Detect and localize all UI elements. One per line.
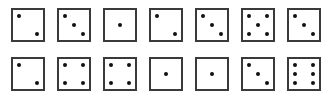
pip-icon — [219, 32, 223, 36]
die-face-2 — [11, 8, 45, 42]
pip-icon — [17, 63, 21, 67]
pip-icon — [256, 23, 260, 27]
pip-icon — [311, 72, 315, 76]
die-face-1 — [149, 57, 183, 91]
pip-icon — [265, 14, 269, 18]
pip-icon — [63, 14, 67, 18]
die-face-5 — [241, 8, 275, 42]
pip-icon — [81, 63, 85, 67]
die-face-3 — [241, 57, 275, 91]
pip-icon — [265, 32, 269, 36]
pip-icon — [311, 32, 315, 36]
pip-icon — [293, 63, 297, 67]
pip-icon — [127, 63, 131, 67]
pip-icon — [17, 14, 21, 18]
pip-icon — [155, 14, 159, 18]
pip-icon — [35, 81, 39, 85]
pip-icon — [109, 81, 113, 85]
pip-icon — [118, 23, 122, 27]
pip-icon — [164, 72, 168, 76]
pip-icon — [35, 32, 39, 36]
die-face-4 — [57, 57, 91, 91]
die-face-1 — [195, 57, 229, 91]
die-face-3 — [57, 8, 91, 42]
dice-row-bottom — [11, 57, 321, 91]
die-face-3 — [195, 8, 229, 42]
pip-icon — [293, 14, 297, 18]
pip-icon — [256, 72, 260, 76]
pip-icon — [293, 72, 297, 76]
pip-icon — [81, 32, 85, 36]
pip-icon — [293, 81, 297, 85]
pip-icon — [311, 63, 315, 67]
pip-icon — [265, 81, 269, 85]
pip-icon — [201, 14, 205, 18]
die-face-3 — [287, 8, 321, 42]
die-face-6 — [287, 57, 321, 91]
die-face-1 — [103, 8, 137, 42]
pip-icon — [127, 81, 131, 85]
pip-icon — [63, 63, 67, 67]
pip-icon — [210, 72, 214, 76]
pip-icon — [109, 63, 113, 67]
pip-icon — [210, 23, 214, 27]
dice-row-top — [11, 8, 321, 42]
pip-icon — [173, 32, 177, 36]
pip-icon — [81, 81, 85, 85]
pip-icon — [247, 32, 251, 36]
pip-icon — [247, 63, 251, 67]
die-face-2 — [149, 8, 183, 42]
die-face-4 — [103, 57, 137, 91]
pip-icon — [63, 81, 67, 85]
pip-icon — [247, 14, 251, 18]
pip-icon — [302, 23, 306, 27]
die-face-2 — [11, 57, 45, 91]
pip-icon — [72, 23, 76, 27]
pip-icon — [311, 81, 315, 85]
